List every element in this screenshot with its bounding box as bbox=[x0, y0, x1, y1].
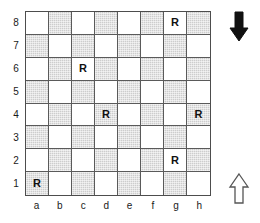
file-label-f: f bbox=[141, 198, 164, 214]
board-square-h4[interactable]: R bbox=[187, 104, 210, 127]
board-square-d8[interactable] bbox=[95, 12, 118, 35]
piece-rook-g8[interactable]: R bbox=[171, 17, 179, 28]
board-square-h6[interactable] bbox=[187, 58, 210, 81]
piece-rook-g2[interactable]: R bbox=[171, 155, 179, 166]
board-square-h5[interactable] bbox=[187, 81, 210, 104]
piece-rook-d4[interactable]: R bbox=[102, 109, 110, 120]
rank-labels: 87654321 bbox=[8, 11, 24, 196]
chessboard-grid[interactable]: RRRRRR bbox=[25, 11, 211, 196]
board-square-c8[interactable] bbox=[72, 12, 95, 35]
board-square-g1[interactable] bbox=[164, 172, 187, 195]
board-square-g2[interactable]: R bbox=[164, 149, 187, 172]
rank-label-3: 3 bbox=[8, 127, 24, 150]
board-square-f6[interactable] bbox=[141, 58, 164, 81]
board-square-b3[interactable] bbox=[49, 126, 72, 149]
file-label-e: e bbox=[118, 198, 141, 214]
board-square-a6[interactable] bbox=[26, 58, 49, 81]
board-square-b7[interactable] bbox=[49, 35, 72, 58]
arrow-down-icon bbox=[228, 11, 250, 43]
arrow-up-icon bbox=[228, 172, 250, 204]
board-square-a2[interactable] bbox=[26, 149, 49, 172]
board-square-e5[interactable] bbox=[118, 81, 141, 104]
board-square-a4[interactable] bbox=[26, 104, 49, 127]
board-square-c5[interactable] bbox=[72, 81, 95, 104]
board-square-a7[interactable] bbox=[26, 35, 49, 58]
board-square-f4[interactable] bbox=[141, 104, 164, 127]
board-square-b1[interactable] bbox=[49, 172, 72, 195]
board-square-d3[interactable] bbox=[95, 126, 118, 149]
board-square-g3[interactable] bbox=[164, 126, 187, 149]
chessboard-figure: 87654321 RRRRRR abcdefgh bbox=[0, 0, 260, 223]
board-square-f5[interactable] bbox=[141, 81, 164, 104]
board-square-g4[interactable] bbox=[164, 104, 187, 127]
board-square-e4[interactable] bbox=[118, 104, 141, 127]
board-square-e8[interactable] bbox=[118, 12, 141, 35]
board-square-b2[interactable] bbox=[49, 149, 72, 172]
board-square-h3[interactable] bbox=[187, 126, 210, 149]
board-square-g6[interactable] bbox=[164, 58, 187, 81]
piece-rook-a1[interactable]: R bbox=[33, 178, 41, 189]
rank-label-2: 2 bbox=[8, 150, 24, 173]
board-square-c7[interactable] bbox=[72, 35, 95, 58]
rank-label-4: 4 bbox=[8, 104, 24, 127]
board-square-g8[interactable]: R bbox=[164, 12, 187, 35]
piece-rook-c6[interactable]: R bbox=[79, 63, 87, 74]
board-square-b5[interactable] bbox=[49, 81, 72, 104]
board-square-d5[interactable] bbox=[95, 81, 118, 104]
board-square-c3[interactable] bbox=[72, 126, 95, 149]
board-square-h8[interactable] bbox=[187, 12, 210, 35]
rank-label-8: 8 bbox=[8, 11, 24, 34]
board-square-b8[interactable] bbox=[49, 12, 72, 35]
board-square-c6[interactable]: R bbox=[72, 58, 95, 81]
board-square-c2[interactable] bbox=[72, 149, 95, 172]
file-label-d: d bbox=[95, 198, 118, 214]
file-label-a: a bbox=[25, 198, 48, 214]
board-square-d7[interactable] bbox=[95, 35, 118, 58]
rank-label-6: 6 bbox=[8, 57, 24, 80]
piece-rook-h4[interactable]: R bbox=[195, 109, 203, 120]
board-square-e1[interactable] bbox=[118, 172, 141, 195]
board-square-h7[interactable] bbox=[187, 35, 210, 58]
board-square-b6[interactable] bbox=[49, 58, 72, 81]
board-square-e3[interactable] bbox=[118, 126, 141, 149]
board-square-g7[interactable] bbox=[164, 35, 187, 58]
board-square-h1[interactable] bbox=[187, 172, 210, 195]
board-square-f2[interactable] bbox=[141, 149, 164, 172]
board-square-d4[interactable]: R bbox=[95, 104, 118, 127]
file-label-g: g bbox=[165, 198, 188, 214]
board-square-d1[interactable] bbox=[95, 172, 118, 195]
board-square-e7[interactable] bbox=[118, 35, 141, 58]
board-square-d2[interactable] bbox=[95, 149, 118, 172]
board-square-f7[interactable] bbox=[141, 35, 164, 58]
board-square-h2[interactable] bbox=[187, 149, 210, 172]
board-square-a1[interactable]: R bbox=[26, 172, 49, 195]
board-square-d6[interactable] bbox=[95, 58, 118, 81]
file-label-b: b bbox=[48, 198, 71, 214]
rank-label-5: 5 bbox=[8, 80, 24, 103]
board-square-a8[interactable] bbox=[26, 12, 49, 35]
board-square-b4[interactable] bbox=[49, 104, 72, 127]
board-square-c4[interactable] bbox=[72, 104, 95, 127]
board-square-e6[interactable] bbox=[118, 58, 141, 81]
file-label-c: c bbox=[72, 198, 95, 214]
file-label-h: h bbox=[188, 198, 211, 214]
file-labels: abcdefgh bbox=[25, 198, 211, 214]
rank-label-1: 1 bbox=[8, 173, 24, 196]
board-square-e2[interactable] bbox=[118, 149, 141, 172]
board-square-f1[interactable] bbox=[141, 172, 164, 195]
rank-label-7: 7 bbox=[8, 34, 24, 57]
board-square-a3[interactable] bbox=[26, 126, 49, 149]
board-square-c1[interactable] bbox=[72, 172, 95, 195]
board-square-f8[interactable] bbox=[141, 12, 164, 35]
board-square-f3[interactable] bbox=[141, 126, 164, 149]
board-square-g5[interactable] bbox=[164, 81, 187, 104]
board-square-a5[interactable] bbox=[26, 81, 49, 104]
